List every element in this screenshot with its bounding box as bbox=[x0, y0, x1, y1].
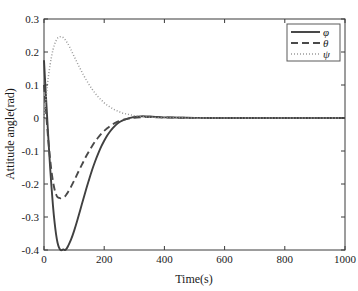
y-tick-label: -0.2 bbox=[22, 178, 39, 190]
x-axis-tick-labels: 02004006008001000 bbox=[41, 253, 356, 265]
x-tick-label: 0 bbox=[41, 253, 47, 265]
y-tick-label: 0.2 bbox=[25, 46, 39, 58]
y-axis-title: Attitude angle(rad) bbox=[3, 88, 17, 180]
x-tick-label: 1000 bbox=[334, 253, 357, 265]
y-tick-label: 0.1 bbox=[25, 79, 39, 91]
x-axis-title: Time(s) bbox=[175, 272, 213, 286]
attitude-angle-chart: 02004006008001000 0.30.20.10-0.1-0.2-0.3… bbox=[0, 0, 358, 291]
x-tick-label: 200 bbox=[96, 253, 113, 265]
y-tick-label: 0 bbox=[34, 112, 40, 124]
figure-container: 02004006008001000 0.30.20.10-0.1-0.2-0.3… bbox=[0, 0, 358, 291]
y-axis-tick-labels: 0.30.20.10-0.1-0.2-0.3-0.4 bbox=[22, 13, 40, 256]
y-tick-label: 0.3 bbox=[25, 13, 39, 25]
legend-label-2: ψ bbox=[323, 48, 330, 60]
x-tick-label: 600 bbox=[216, 253, 233, 265]
x-tick-label: 400 bbox=[156, 253, 173, 265]
y-tick-label: -0.3 bbox=[22, 211, 40, 223]
y-tick-label: -0.4 bbox=[22, 244, 40, 256]
x-tick-label: 800 bbox=[277, 253, 294, 265]
y-tick-label: -0.1 bbox=[22, 145, 39, 157]
legend: φθψ bbox=[287, 24, 340, 61]
